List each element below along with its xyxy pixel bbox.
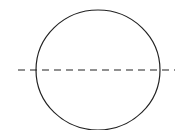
diagram-canvas bbox=[0, 0, 177, 130]
